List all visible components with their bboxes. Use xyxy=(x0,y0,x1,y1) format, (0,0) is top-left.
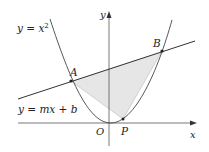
x-axis-label: x xyxy=(190,129,196,140)
point-b-label: B xyxy=(152,37,161,49)
point-p-label: P xyxy=(120,125,129,137)
origin-label: O xyxy=(96,126,104,137)
point-a-dot xyxy=(69,79,72,82)
point-b-dot xyxy=(160,49,163,52)
diagram-figure: y = x2 y = mx + b y x O A B P xyxy=(0,0,209,152)
x-axis-arrow-icon xyxy=(190,121,197,126)
line-label: y = mx + b xyxy=(17,103,78,115)
parabola-label: y = x2 xyxy=(16,22,49,34)
point-p-dot xyxy=(122,118,125,121)
y-axis-arrow-icon xyxy=(107,11,112,18)
point-a-label: A xyxy=(69,66,78,78)
y-axis-label: y xyxy=(99,9,106,20)
